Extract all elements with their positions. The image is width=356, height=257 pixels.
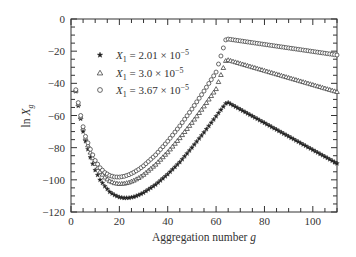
circle-marker bbox=[217, 62, 221, 66]
y-tick-label: 0 bbox=[60, 13, 66, 25]
triangle-marker bbox=[97, 70, 103, 75]
y-axis: 0−20−40−60−80−100−120 bbox=[42, 13, 337, 218]
triangle-marker bbox=[219, 73, 224, 77]
circle-marker bbox=[207, 81, 211, 85]
x-tick-label: 80 bbox=[259, 215, 271, 227]
circle-marker bbox=[209, 78, 213, 82]
y-tick-label: −80 bbox=[48, 142, 66, 154]
circle-marker bbox=[81, 125, 85, 129]
circle-marker bbox=[98, 88, 103, 93]
y-tick-label: −60 bbox=[48, 110, 66, 122]
x-tick-label: 0 bbox=[68, 215, 74, 227]
circle-marker bbox=[212, 74, 216, 78]
y-axis-title: ln Xg bbox=[20, 105, 35, 128]
legend-item-star: X1 = 2.01 × 10−5 bbox=[97, 48, 189, 64]
legend: X1 = 2.01 × 10−5X1 = 3.0 × 10−5X1 = 3.67… bbox=[97, 48, 189, 99]
circle-marker bbox=[88, 147, 92, 151]
x-tick-label: 100 bbox=[305, 215, 322, 227]
triangle-marker bbox=[221, 66, 226, 70]
x-tick-label: 60 bbox=[211, 215, 223, 227]
circle-marker bbox=[221, 46, 225, 50]
circle-marker bbox=[200, 93, 204, 97]
legend-label: X1 = 2.01 × 10−5 bbox=[115, 48, 189, 64]
legend-label: X1 = 3.0 × 10−5 bbox=[115, 66, 183, 82]
legend-item-triangle: X1 = 3.0 × 10−5 bbox=[97, 66, 183, 82]
circle-marker bbox=[202, 89, 206, 93]
y-tick-label: −100 bbox=[42, 174, 65, 186]
data-series-layer bbox=[74, 37, 340, 200]
triangle-marker bbox=[214, 87, 219, 91]
circle-marker bbox=[214, 70, 218, 74]
circle-marker bbox=[96, 162, 100, 166]
legend-label: X1 = 3.67 × 10−5 bbox=[115, 83, 189, 99]
circle-marker bbox=[335, 53, 339, 57]
y-tick-label: −40 bbox=[48, 77, 66, 89]
circle-marker bbox=[204, 85, 208, 89]
x-tick-label: 20 bbox=[114, 215, 126, 227]
circle-marker bbox=[91, 153, 95, 157]
circle-marker bbox=[84, 134, 88, 138]
y-tick-label: −120 bbox=[42, 206, 65, 218]
series-triangle bbox=[74, 58, 340, 186]
chart-canvas: 020406080100 0−20−40−60−80−100−120 X1 = … bbox=[0, 0, 356, 257]
x-axis-title: Aggregation number g bbox=[152, 231, 256, 244]
circle-marker bbox=[192, 103, 196, 107]
circle-marker bbox=[197, 96, 201, 100]
circle-marker bbox=[93, 159, 97, 163]
triangle-marker bbox=[216, 80, 221, 84]
circle-marker bbox=[190, 107, 194, 111]
y-tick-label: −20 bbox=[48, 45, 66, 57]
circle-marker bbox=[74, 88, 78, 92]
star-marker bbox=[98, 177, 103, 181]
circle-marker bbox=[195, 100, 199, 104]
circle-marker bbox=[76, 101, 80, 105]
circle-marker bbox=[86, 141, 90, 145]
legend-item-circle: X1 = 3.67 × 10−5 bbox=[98, 83, 189, 99]
x-tick-label: 40 bbox=[162, 215, 174, 227]
circle-marker bbox=[219, 54, 223, 58]
star-marker bbox=[97, 52, 102, 57]
circle-marker bbox=[79, 114, 83, 118]
